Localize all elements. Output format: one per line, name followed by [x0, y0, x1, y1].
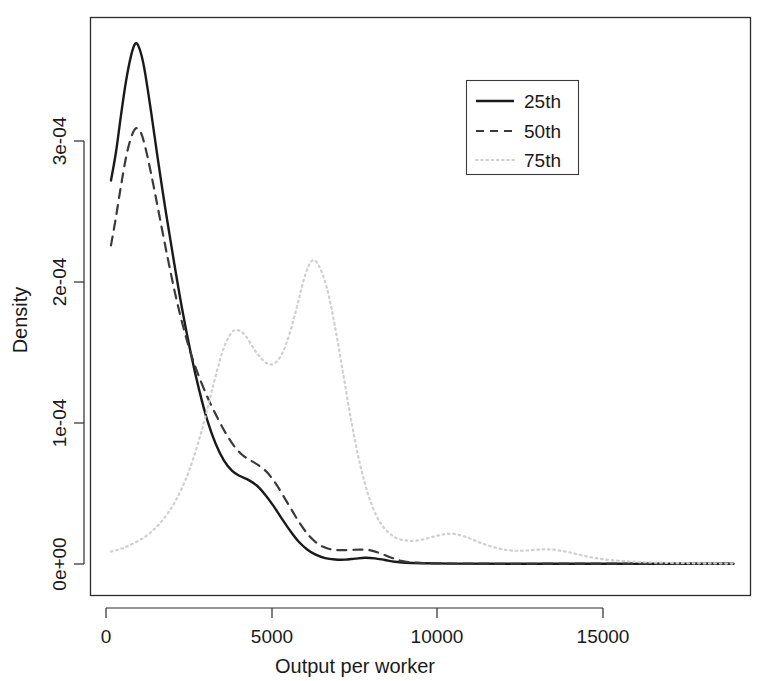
legend-label-25th: 25th	[524, 91, 561, 112]
x-tick-group	[106, 608, 603, 618]
x-tick-label-0: 0	[101, 626, 112, 647]
y-tick-label-2: 2e-04	[49, 257, 70, 306]
x-axis: 0 5000 10000 15000 Output per worker	[101, 608, 630, 677]
series-layer	[111, 43, 734, 564]
series-line-50th	[111, 128, 734, 564]
y-tick-label-0: 0e+00	[49, 537, 70, 590]
y-axis-title: Density	[9, 287, 31, 354]
legend-label-75th: 75th	[524, 150, 561, 171]
x-tick-label-2: 10000	[411, 626, 464, 647]
x-tick-label-3: 15000	[577, 626, 630, 647]
chart-canvas: 0e+00 1e-04 2e-04 3e-04 Density 0 5000 1…	[0, 0, 770, 681]
x-axis-title: Output per worker	[275, 655, 435, 677]
legend-label-50th: 50th	[524, 121, 561, 142]
y-tick-label-3: 3e-04	[49, 116, 70, 165]
x-tick-label-1: 5000	[251, 626, 293, 647]
plot-frame	[91, 18, 751, 596]
y-tick-group	[74, 141, 84, 564]
y-tick-label-1: 1e-04	[49, 398, 70, 447]
y-axis: 0e+00 1e-04 2e-04 3e-04 Density	[9, 116, 84, 590]
density-chart-figure: 0e+00 1e-04 2e-04 3e-04 Density 0 5000 1…	[0, 0, 770, 681]
series-line-25th	[111, 43, 734, 564]
legend: 25th 50th 75th	[467, 81, 579, 175]
